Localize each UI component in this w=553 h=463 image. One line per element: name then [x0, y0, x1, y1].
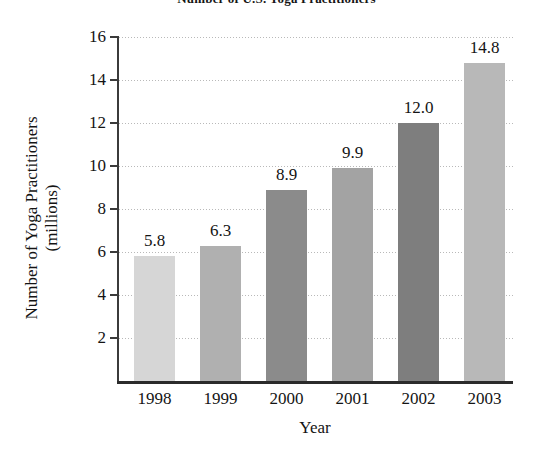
bar-2000 — [266, 190, 307, 381]
bar-value-label: 5.8 — [144, 232, 165, 249]
x-axis-line — [117, 381, 513, 384]
bar-chart-figure: Number of U.S. Yoga Practitioners Number… — [0, 0, 553, 463]
x-axis-title: Year — [117, 418, 513, 438]
y-tick-mark — [110, 36, 119, 38]
y-axis-title-line2: (millions) — [42, 48, 62, 388]
bar-value-label: 14.8 — [470, 39, 500, 56]
y-tick-label: 6 — [98, 243, 107, 260]
bar-1998 — [134, 256, 175, 381]
bar-2003 — [464, 63, 505, 381]
bar-1999 — [200, 246, 241, 381]
x-tick-label-1998: 1998 — [138, 390, 172, 407]
bar-value-label: 9.9 — [342, 144, 363, 161]
y-tick-label: 2 — [98, 329, 107, 346]
y-tick-label: 10 — [89, 157, 106, 174]
bar-value-label: 8.9 — [276, 166, 297, 183]
y-tick-mark — [110, 337, 119, 339]
chart-title: Number of U.S. Yoga Practitioners — [0, 0, 553, 7]
bar-value-label: 12.0 — [404, 99, 434, 116]
y-axis-title-line1: Number of Yoga Practitioners — [22, 116, 41, 319]
x-tick-label-2000: 2000 — [270, 390, 304, 407]
gridline — [119, 338, 513, 339]
x-tick-label-2001: 2001 — [336, 390, 370, 407]
gridline — [119, 209, 513, 210]
bar-2001 — [332, 168, 373, 381]
y-tick-label: 16 — [89, 28, 106, 45]
y-tick-mark — [110, 122, 119, 124]
x-tick-label-2003: 2003 — [468, 390, 502, 407]
bar-2002 — [398, 123, 439, 381]
y-axis-title: Number of Yoga Practitioners (millions) — [22, 48, 62, 388]
y-tick-mark — [110, 165, 119, 167]
gridline — [119, 37, 513, 38]
y-tick-label: 12 — [89, 114, 106, 131]
gridline — [119, 295, 513, 296]
gridline — [119, 80, 513, 81]
y-tick-mark — [110, 294, 119, 296]
gridline — [119, 123, 513, 124]
x-tick-label-2002: 2002 — [402, 390, 436, 407]
y-tick-label: 8 — [98, 200, 107, 217]
gridline — [119, 166, 513, 167]
y-tick-label: 14 — [89, 71, 106, 88]
y-tick-mark — [110, 251, 119, 253]
y-tick-mark — [110, 79, 119, 81]
y-tick-mark — [110, 208, 119, 210]
gridline — [119, 252, 513, 253]
bar-value-label: 6.3 — [210, 222, 231, 239]
y-axis-line — [117, 37, 119, 383]
plot-area: 246810121416 5.86.38.99.912.014.8 199819… — [117, 37, 513, 383]
y-tick-label: 4 — [98, 286, 107, 303]
x-tick-label-1999: 1999 — [204, 390, 238, 407]
